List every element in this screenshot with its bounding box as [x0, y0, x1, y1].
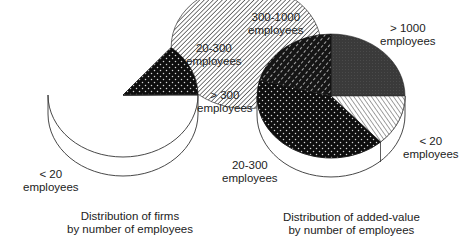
label-firms-20-300: 20-300 employees [186, 42, 242, 68]
label-line: employees [186, 55, 242, 68]
label-line: > 1000 [380, 22, 436, 35]
label-firms-lt20: < 20 employees [23, 168, 79, 194]
label-line: employees [248, 24, 304, 37]
label-line: employees [380, 35, 436, 48]
label-line: employees [197, 102, 253, 115]
caption-added-value: Distribution of added-value by number of… [283, 211, 420, 237]
added-value-pie [257, 34, 405, 177]
label-line: 20-300 [222, 159, 278, 172]
label-added-value-300-1000: 300-1000 employees [248, 11, 304, 37]
firms-pie-side [48, 95, 198, 176]
label-line: 20-300 [186, 42, 242, 55]
label-firms-gt300: > 300 employees [197, 89, 253, 115]
caption-line: by number of employees [283, 224, 420, 237]
label-line: 300-1000 [248, 11, 304, 24]
label-added-value-lt20: < 20 employees [403, 135, 459, 161]
label-line: < 20 [403, 135, 459, 148]
label-line: < 20 [23, 168, 79, 181]
caption-line: Distribution of firms [67, 210, 193, 223]
label-added-value-gt1000: > 1000 employees [380, 22, 436, 48]
caption-line: by number of employees [67, 223, 193, 236]
caption-line: Distribution of added-value [283, 211, 420, 224]
label-line: > 300 [197, 89, 253, 102]
label-line: employees [403, 148, 459, 161]
label-line: employees [222, 172, 278, 185]
caption-firms: Distribution of firms by number of emplo… [67, 210, 193, 236]
label-added-value-20-300: 20-300 employees [222, 159, 278, 185]
label-line: employees [23, 181, 79, 194]
